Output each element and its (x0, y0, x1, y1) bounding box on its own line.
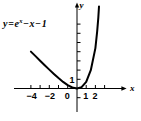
equation-minus-1: − (23, 18, 30, 29)
equation-term-one: 1 (42, 18, 47, 29)
x-tick-label-1: 1 (83, 92, 88, 101)
x-tick-label-0: 0 (65, 92, 70, 101)
x-axis-label: x (130, 84, 135, 93)
x-tick-label-neg2: −2 (45, 92, 55, 101)
y-axis-label: y (80, 1, 84, 10)
equation-equals: = (8, 18, 15, 29)
equation-minus-2: − (35, 18, 42, 29)
equation-annotation: y=ex−x−1 (3, 19, 47, 29)
x-tick-label-2: 2 (92, 92, 97, 101)
function-plot-figure: y=ex−x−1 −4 −2 0 1 2 1 x y (0, 0, 141, 121)
y-tick-label-1: 1 (70, 76, 75, 85)
x-tick-label-neg4: −4 (26, 92, 36, 101)
equation-lhs: y (3, 18, 8, 29)
equation-term-x: x (30, 18, 35, 29)
